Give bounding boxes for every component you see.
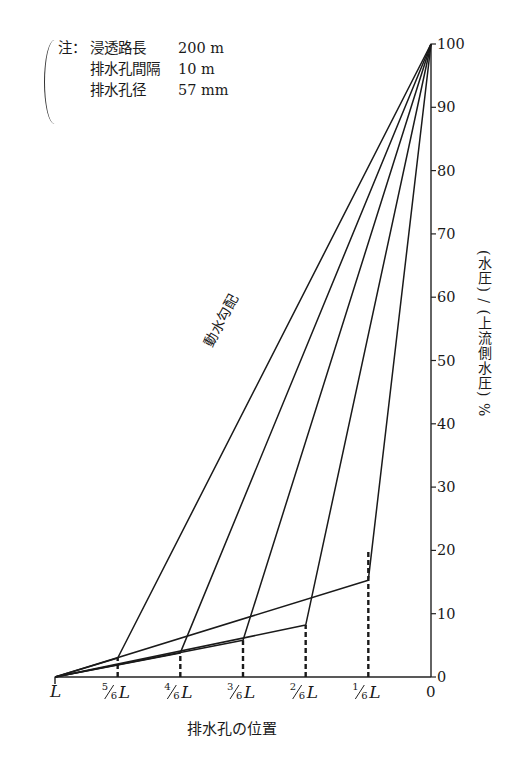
x-tick-label: 46L	[164, 681, 192, 702]
note-key: 排水孔間隔	[90, 59, 178, 80]
note-row: 注： 浸透路長 200 m	[58, 38, 229, 59]
svg-text:2: 2	[290, 681, 296, 692]
series-lines	[55, 44, 431, 677]
y-tick-label: 10	[437, 606, 455, 622]
pressure-line	[55, 44, 431, 677]
svg-text:L: L	[243, 682, 255, 702]
axes	[55, 44, 436, 684]
note-value: 10 m	[178, 59, 215, 80]
y-tick-label: 0	[437, 669, 446, 685]
y-tick-label: 50	[437, 353, 455, 369]
pressure-line	[55, 44, 431, 677]
svg-text:L: L	[49, 681, 61, 701]
svg-text:6: 6	[361, 690, 367, 701]
x-tick-label: L	[49, 681, 61, 701]
svg-text:3: 3	[227, 681, 233, 692]
pressure-line	[55, 44, 431, 677]
pressure-line	[55, 44, 431, 677]
y-tick-label: 90	[437, 99, 455, 115]
x-tick-label: 36L	[227, 681, 255, 702]
x-tick-label: 16L	[352, 681, 380, 702]
y-tick-label: 20	[437, 542, 455, 558]
svg-text:5: 5	[102, 681, 108, 692]
y-tick-label: 80	[437, 163, 455, 179]
y-tick-label: 70	[437, 226, 455, 242]
note-row: 排水孔径 57 mm	[58, 80, 229, 101]
svg-text:6: 6	[173, 690, 179, 701]
svg-text:L: L	[306, 682, 318, 702]
svg-text:6: 6	[236, 690, 242, 701]
svg-text:L: L	[368, 682, 380, 702]
y-tick-label: 60	[437, 289, 455, 305]
note-value: 57 mm	[178, 80, 229, 101]
svg-text:1: 1	[352, 681, 358, 692]
y-tick-label: 100	[437, 36, 465, 52]
x-tick-label: 26L	[290, 681, 318, 702]
pressure-gradient-chart: 0102030405060708090100L56L46L36L26L16L0	[0, 0, 517, 774]
y-axis-title: (水圧) / (上流側水圧) %	[470, 250, 494, 500]
note-prefix: 注：	[58, 38, 90, 59]
svg-text:L: L	[180, 682, 192, 702]
note-box: 注： 浸透路長 200 m 排水孔間隔 10 m 排水孔径 57 mm	[58, 38, 229, 101]
note-value: 200 m	[178, 38, 224, 59]
note-key: 排水孔径	[90, 80, 178, 101]
x-tick-label: 0	[426, 683, 436, 701]
svg-text:6: 6	[299, 690, 305, 701]
svg-text:4: 4	[164, 681, 170, 692]
x-axis-title: 排水孔の位置	[187, 717, 277, 738]
x-tick-label: 56L	[102, 681, 130, 702]
svg-text:0: 0	[426, 683, 436, 701]
y-tick-label: 40	[437, 416, 455, 432]
y-tick-label: 30	[437, 479, 455, 495]
note-key: 浸透路長	[90, 38, 178, 59]
svg-text:6: 6	[111, 690, 117, 701]
svg-text:L: L	[118, 682, 130, 702]
note-row: 排水孔間隔 10 m	[58, 59, 229, 80]
pressure-line	[55, 44, 431, 677]
